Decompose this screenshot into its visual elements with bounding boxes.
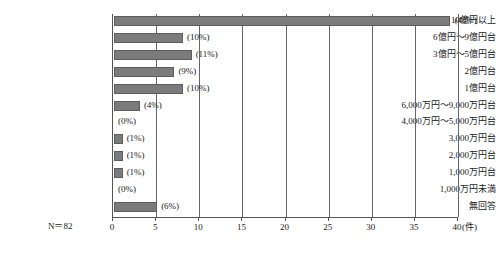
gridline-10: [199, 14, 200, 217]
x-axis-unit-label: (件): [462, 222, 477, 233]
percent-label: (4%): [144, 100, 162, 110]
gridline-25: [329, 14, 330, 217]
percent-label: (10%): [187, 32, 210, 42]
bar: [114, 50, 192, 60]
tick-label-30: 30: [359, 222, 383, 233]
tick-label-15: 15: [229, 222, 253, 233]
gridline-15: [242, 14, 243, 217]
percent-label: (6%): [161, 201, 179, 211]
tick-mark-15: [241, 217, 242, 221]
tick-label-5: 5: [143, 222, 167, 233]
percent-label: (1%): [127, 167, 145, 177]
bar: [114, 84, 183, 94]
bar: [114, 151, 123, 161]
percent-label: (9%): [178, 66, 196, 76]
bar: [114, 134, 123, 144]
gridline-40: [458, 14, 459, 217]
sample-size-note: N＝82: [48, 221, 73, 232]
percent-label: (1%): [127, 133, 145, 143]
tick-mark-35: [414, 217, 415, 221]
gridline-35: [415, 14, 416, 217]
bar: [114, 33, 183, 43]
percent-label: (48%): [454, 15, 477, 25]
percent-label: (0%): [118, 184, 136, 194]
percent-label: (10%): [187, 83, 210, 93]
tick-mark-30: [371, 217, 372, 221]
bar: [114, 16, 450, 26]
tick-mark-20: [285, 217, 286, 221]
tick-label-0: 0: [100, 222, 124, 233]
tick-label-35: 35: [402, 222, 426, 233]
percent-label: (11%): [196, 49, 218, 59]
bar: [114, 168, 123, 178]
tick-label-10: 10: [186, 222, 210, 233]
bar: [114, 101, 140, 111]
tick-mark-0: [112, 217, 113, 221]
horizontal-bar-chart: 10億円以上6億円〜9億円台3億円〜5億円台2億円台1億円台6,000万円〜9,…: [0, 0, 496, 253]
tick-mark-25: [328, 217, 329, 221]
percent-label: (1%): [127, 150, 145, 160]
tick-mark-5: [155, 217, 156, 221]
percent-label: (0%): [118, 116, 136, 126]
tick-mark-40: [457, 217, 458, 221]
tick-mark-10: [198, 217, 199, 221]
bar: [114, 202, 157, 212]
bar: [114, 67, 174, 77]
gridline-30: [372, 14, 373, 217]
tick-label-25: 25: [316, 222, 340, 233]
gridline-5: [156, 14, 157, 217]
gridline-20: [286, 14, 287, 217]
plot-area: [112, 14, 457, 217]
tick-label-20: 20: [273, 222, 297, 233]
